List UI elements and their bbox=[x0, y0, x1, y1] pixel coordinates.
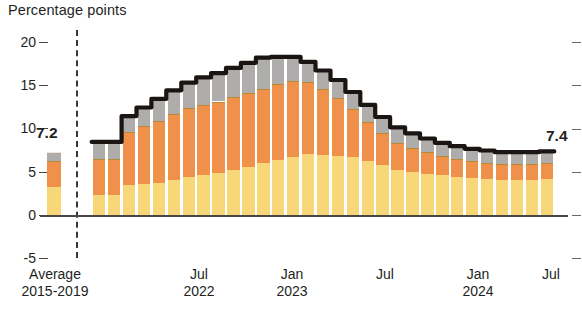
bar-segment-top-segment bbox=[123, 116, 135, 132]
bar-segment-top-segment bbox=[197, 77, 209, 105]
bar-jan-2023 bbox=[272, 57, 284, 215]
bar-segment-bottom-segment bbox=[436, 175, 448, 215]
bar-segment-top-segment bbox=[47, 153, 61, 161]
bar-segment-bottom-segment bbox=[362, 161, 374, 215]
bar-segment-bottom-segment bbox=[108, 195, 120, 215]
x-tick-jul-2022-line1: Jul bbox=[159, 266, 239, 283]
bar-jul-2024 bbox=[541, 151, 553, 215]
bar-segment-bottom-segment bbox=[168, 180, 180, 215]
bar-jul-2023 bbox=[362, 105, 374, 215]
bar-jan-2022 bbox=[93, 142, 105, 215]
bar-segment-bottom-segment bbox=[183, 177, 195, 215]
bar-segment-bottom-segment bbox=[272, 160, 284, 215]
bar-segment-middle-segment bbox=[391, 143, 403, 171]
bar-segment-bottom-segment bbox=[197, 175, 209, 215]
bar-mar-2023 bbox=[302, 62, 314, 215]
bar-segment-top-segment bbox=[511, 152, 523, 164]
bar-jan-2024 bbox=[451, 146, 463, 215]
bar-segment-middle-segment bbox=[123, 132, 135, 184]
x-tick-average: Average 2015-2019 bbox=[0, 266, 110, 300]
bar-segment-top-segment bbox=[153, 99, 165, 121]
bar-oct-2023 bbox=[406, 133, 418, 215]
bar-aug-2023 bbox=[376, 117, 388, 215]
bar-oct-2022 bbox=[227, 68, 239, 215]
bar-segment-bottom-segment bbox=[481, 179, 493, 215]
bar-segment-middle-segment bbox=[421, 152, 433, 174]
bar-segment-middle-segment bbox=[302, 82, 314, 154]
x-tick-jan-2023-line2: 2023 bbox=[252, 283, 332, 300]
bar-segment-top-segment bbox=[496, 152, 508, 164]
bar-segment-bottom-segment bbox=[47, 187, 61, 215]
bar-segment-top-segment bbox=[436, 143, 448, 156]
bar-segment-middle-segment bbox=[481, 163, 493, 179]
bar-feb-2024 bbox=[466, 149, 478, 215]
bar-segment-top-segment bbox=[332, 80, 344, 98]
bar-mar-2024 bbox=[481, 151, 493, 216]
bar-segment-top-segment bbox=[168, 90, 180, 114]
bar-jun-2023 bbox=[347, 92, 359, 215]
bar-segment-middle-segment bbox=[183, 108, 195, 177]
x-tick-jan-2024-line1: Jan bbox=[438, 266, 518, 283]
bar-segment-middle-segment bbox=[362, 122, 374, 161]
bar-segment-bottom-segment bbox=[93, 195, 105, 215]
bar-segment-top-segment bbox=[138, 108, 150, 127]
bar-segment-top-segment bbox=[93, 142, 105, 159]
x-tick-average-line2: 2015-2019 bbox=[0, 283, 110, 300]
bar-segment-middle-segment bbox=[347, 109, 359, 157]
bar-segment-middle-segment bbox=[496, 164, 508, 179]
bar-segment-middle-segment bbox=[138, 126, 150, 184]
bar-segment-middle-segment bbox=[197, 105, 209, 176]
x-tick-average-line1: Average bbox=[0, 266, 110, 283]
bar-segment-middle-segment bbox=[376, 133, 388, 165]
bar-sep-2022 bbox=[212, 73, 224, 215]
bar-segment-bottom-segment bbox=[153, 183, 165, 215]
bars-layer bbox=[0, 0, 582, 311]
bar-segment-bottom-segment bbox=[138, 184, 150, 215]
bar-segment-top-segment bbox=[257, 58, 269, 89]
bar-dec-2022 bbox=[257, 58, 269, 215]
bar-segment-middle-segment bbox=[332, 98, 344, 156]
value-label-right: 7.4 bbox=[546, 127, 568, 145]
bar-segment-middle-segment bbox=[406, 148, 418, 172]
bar-segment-top-segment bbox=[108, 142, 120, 159]
bar-segment-top-segment bbox=[466, 149, 478, 161]
bar-segment-top-segment bbox=[287, 57, 299, 81]
bar-segment-middle-segment bbox=[511, 164, 523, 179]
bar-segment-top-segment bbox=[212, 73, 224, 101]
bar-feb-2022 bbox=[108, 142, 120, 215]
bar-apr-2022 bbox=[138, 108, 150, 216]
bar-segment-middle-segment bbox=[526, 164, 538, 179]
x-tick-jul-2024-line1: Jul bbox=[520, 266, 582, 283]
x-tick-jan-2024-line2: 2024 bbox=[438, 283, 518, 300]
bar-segment-middle-segment bbox=[153, 121, 165, 183]
bar-segment-top-segment bbox=[481, 151, 493, 163]
bar-segment-middle-segment bbox=[317, 89, 329, 154]
bar-dec-2023 bbox=[436, 143, 448, 215]
x-tick-jul-2024: Jul bbox=[520, 266, 582, 283]
bar-segment-bottom-segment bbox=[376, 165, 388, 215]
bar-segment-middle-segment bbox=[108, 159, 120, 195]
bar-nov-2023 bbox=[421, 138, 433, 215]
bar-segment-top-segment bbox=[183, 83, 195, 109]
bar-segment-bottom-segment bbox=[466, 178, 478, 215]
bar-segment-bottom-segment bbox=[526, 180, 538, 215]
bar-segment-top-segment bbox=[541, 151, 553, 163]
bar-segment-bottom-segment bbox=[302, 154, 314, 215]
bar-segment-top-segment bbox=[347, 92, 359, 109]
bar-segment-top-segment bbox=[227, 68, 239, 97]
bar-nov-2022 bbox=[242, 63, 254, 215]
bar-segment-bottom-segment bbox=[332, 156, 344, 215]
bar-segment-top-segment bbox=[406, 133, 418, 148]
bar-segment-middle-segment bbox=[212, 102, 224, 173]
bar-segment-middle-segment bbox=[541, 163, 553, 178]
bar-segment-top-segment bbox=[317, 71, 329, 90]
x-tick-jul-2022-line2: 2022 bbox=[159, 283, 239, 300]
bar-segment-middle-segment bbox=[227, 97, 239, 170]
bar-apr-2023 bbox=[317, 71, 329, 215]
bar-segment-middle-segment bbox=[466, 161, 478, 178]
bar-segment-middle-segment bbox=[272, 84, 284, 160]
bar-average-2015-2019 bbox=[47, 153, 61, 215]
x-tick-jan-2023: Jan 2023 bbox=[252, 266, 332, 300]
value-label-left: 7.2 bbox=[36, 124, 58, 142]
x-tick-jan-2024: Jan 2024 bbox=[438, 266, 518, 300]
